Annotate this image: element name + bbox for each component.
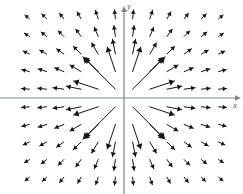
- vector-arrowhead-icon: [206, 86, 210, 91]
- vector-arrowhead-icon: [168, 162, 172, 167]
- vector-arrowhead-icon: [177, 84, 182, 89]
- vector-arrowhead-icon: [168, 29, 172, 34]
- vector-arrowhead-icon: [22, 123, 26, 128]
- vector-arrowhead-icon: [112, 10, 117, 14]
- vector-arrow-shaft: [133, 57, 166, 90]
- vector-arrowhead-icon: [111, 152, 116, 157]
- vector-arrowhead-icon: [56, 49, 61, 53]
- vector-arrowhead-icon: [177, 106, 182, 111]
- vector-arrowhead-icon: [132, 152, 137, 157]
- vector-arrowhead-icon: [76, 29, 80, 34]
- vector-field-plot: [0, 0, 243, 194]
- vector-arrowhead-icon: [22, 68, 26, 73]
- vector-field-figure: y x: [0, 0, 243, 194]
- vector-arrowhead-icon: [21, 105, 25, 110]
- y-axis-arrowhead-icon: [121, 6, 127, 12]
- vector-arrowhead-icon: [187, 49, 192, 53]
- vector-arrowhead-icon: [111, 39, 116, 44]
- vector-arrowhead-icon: [131, 10, 136, 14]
- vector-arrowhead-icon: [38, 86, 42, 91]
- vector-arrowhead-icon: [187, 143, 192, 147]
- vector-arrowhead-icon: [66, 84, 71, 89]
- vector-arrow-shaft: [83, 57, 116, 90]
- vector-arrowhead-icon: [21, 86, 25, 91]
- vector-arrowhead-icon: [222, 123, 226, 128]
- vector-arrowhead-icon: [56, 143, 61, 147]
- vector-arrowhead-icon: [76, 162, 80, 167]
- x-axis-label: x: [233, 101, 237, 110]
- vector-arrowhead-icon: [223, 86, 227, 91]
- vector-arrowhead-icon: [38, 105, 42, 110]
- vector-arrowhead-icon: [66, 106, 71, 111]
- vector-arrowhead-icon: [132, 39, 137, 44]
- vector-arrowhead-icon: [223, 105, 227, 110]
- vector-arrowhead-icon: [222, 68, 226, 73]
- vector-arrowhead-icon: [206, 105, 210, 110]
- vector-arrowhead-icon: [131, 181, 136, 185]
- y-axis-label: y: [127, 2, 131, 11]
- vector-arrowhead-icon: [113, 181, 118, 185]
